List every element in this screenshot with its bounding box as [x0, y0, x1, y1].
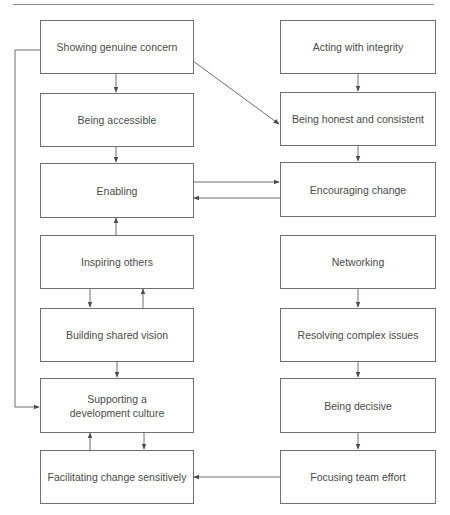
node-label: Building shared vision	[66, 328, 168, 342]
node-networking: Networking	[280, 235, 436, 289]
node-label: Focusing team effort	[310, 470, 406, 484]
node-label: Resolving complex issues	[298, 328, 419, 342]
node-resolving-complex-issues: Resolving complex issues	[280, 308, 436, 362]
node-label: Being decisive	[324, 399, 392, 413]
node-focusing-team-effort: Focusing team effort	[280, 450, 436, 504]
node-label: Encouraging change	[310, 183, 406, 197]
node-label: Being honest and consistent	[292, 112, 424, 126]
node-label: Being accessible	[78, 113, 157, 127]
node-label: Facilitating change sensitively	[48, 470, 187, 484]
node-inspiring-others: Inspiring others	[40, 235, 194, 289]
node-label: Enabling	[97, 184, 138, 198]
node-label: Supporting a development culture	[59, 392, 175, 420]
node-label: Networking	[332, 255, 385, 269]
arrow-l1-r2	[193, 61, 279, 124]
node-enabling: Enabling	[40, 163, 194, 218]
node-being-decisive: Being decisive	[280, 378, 436, 433]
node-facilitating-change-sensitively: Facilitating change sensitively	[40, 450, 194, 504]
node-supporting-development-culture: Supporting a development culture	[40, 378, 194, 433]
node-label: Showing genuine concern	[57, 40, 178, 54]
arrow-l1-l6	[15, 50, 40, 407]
node-encouraging-change: Encouraging change	[280, 162, 436, 217]
node-being-honest-and-consistent: Being honest and consistent	[280, 92, 436, 146]
node-being-accessible: Being accessible	[40, 93, 194, 147]
node-showing-genuine-concern: Showing genuine concern	[40, 20, 194, 74]
node-label: Inspiring others	[81, 255, 153, 269]
node-building-shared-vision: Building shared vision	[40, 308, 194, 362]
node-acting-with-integrity: Acting with integrity	[280, 20, 436, 74]
node-label: Acting with integrity	[313, 40, 403, 54]
